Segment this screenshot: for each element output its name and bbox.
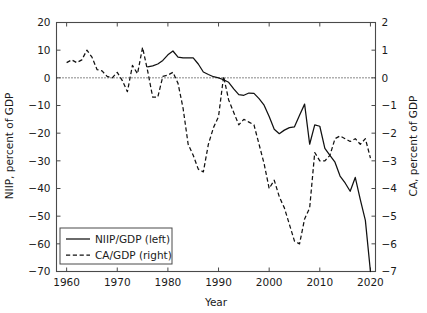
y-right-tick-label: −1 <box>382 99 397 111</box>
x-tick-label: 1980 <box>155 276 182 288</box>
y-left-tick-label: −10 <box>28 99 50 111</box>
y-right-tick-label: 2 <box>382 16 389 28</box>
x-tick-label: 2000 <box>256 276 283 288</box>
y-left-tick-label: −60 <box>28 238 50 250</box>
x-axis-tick-labels: 1960197019801990200020102020 <box>53 276 384 288</box>
y-right-tick-label: −2 <box>382 127 397 139</box>
y-right-tick-label: −6 <box>382 238 398 250</box>
x-tick-label: 2010 <box>306 276 333 288</box>
y-right-tick-label: 1 <box>382 44 389 56</box>
y-left-tick-label: 10 <box>37 44 50 56</box>
y-left-tick-label: −30 <box>28 155 50 167</box>
chart-figure: 1960197019801990200020102020 20100−10−20… <box>0 0 427 313</box>
series-line-niip-gdp <box>148 51 371 272</box>
y-axis-right-ticks <box>372 23 376 272</box>
x-tick-label: 1970 <box>104 276 131 288</box>
y-right-tick-label: −7 <box>382 265 397 277</box>
y-axis-right-title: CA, percent of GDP <box>407 96 419 197</box>
y-right-tick-label: −3 <box>382 155 397 167</box>
chart-legend: NIIP/GDP (left)CA/GDP (right) <box>60 228 172 264</box>
y-axis-right-tick-labels: 210−1−2−3−4−5−6−7 <box>382 16 398 277</box>
y-axis-left-tick-labels: 20100−10−20−30−40−50−60−70 <box>28 16 50 277</box>
y-left-tick-label: −70 <box>28 265 50 277</box>
y-left-tick-label: 20 <box>37 16 50 28</box>
x-axis-title: Year <box>204 296 228 308</box>
y-left-tick-label: −20 <box>28 127 50 139</box>
x-tick-label: 1960 <box>53 276 80 288</box>
y-right-tick-label: −5 <box>382 210 397 222</box>
x-tick-label: 2020 <box>357 276 384 288</box>
x-tick-label: 1990 <box>205 276 232 288</box>
y-left-tick-label: −50 <box>28 210 50 222</box>
y-right-tick-label: 0 <box>382 72 389 84</box>
y-axis-left-title: NIIP, percent of GDP <box>3 93 15 200</box>
legend-entry-label: CA/GDP (right) <box>95 249 172 261</box>
chart-canvas: 1960197019801990200020102020 20100−10−20… <box>0 0 427 313</box>
y-left-tick-label: 0 <box>44 72 51 84</box>
y-left-tick-label: −40 <box>28 182 50 194</box>
y-right-tick-label: −4 <box>382 182 398 194</box>
legend-entry-label: NIIP/GDP (left) <box>95 233 170 245</box>
